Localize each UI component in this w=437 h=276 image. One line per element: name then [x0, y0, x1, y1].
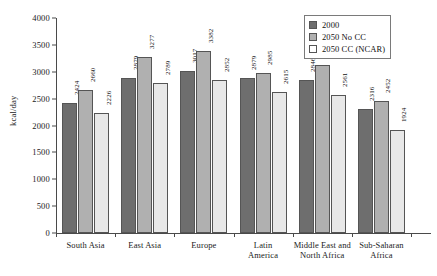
x-axis-category-label: East Asia — [115, 240, 174, 250]
x-axis-line — [56, 233, 431, 234]
bar-column: 2226 — [94, 18, 109, 233]
legend-label: 2050 CC (NCAR) — [322, 44, 385, 54]
bar-value-label: 1924 — [397, 118, 411, 126]
bar-group: 242426602226 — [56, 18, 115, 233]
bar-column: 2424 — [62, 18, 77, 233]
bar-value-label: 2852 — [220, 68, 234, 76]
x-axis-category-label: South Asia — [56, 240, 115, 250]
bar — [299, 80, 314, 233]
bar-column: 2789 — [153, 18, 168, 233]
bar-column: 2985 — [256, 18, 271, 233]
x-axis-category-label: Sub-SaharanAfrica — [352, 240, 411, 260]
bar-column: 1924 — [390, 18, 405, 233]
x-axis-tick-mark — [174, 233, 175, 237]
bar — [390, 130, 405, 233]
bar — [256, 73, 271, 233]
bar-value-label: 2226 — [102, 101, 116, 109]
bar — [331, 95, 346, 233]
bar-group: 287929852615 — [234, 18, 293, 233]
legend-swatch-icon — [309, 21, 317, 29]
bar — [78, 90, 93, 233]
bar — [240, 78, 255, 233]
bar — [272, 92, 287, 233]
bar — [62, 103, 77, 233]
legend-swatch-icon — [309, 45, 317, 53]
bar — [180, 71, 195, 233]
bar-column: 2615 — [272, 18, 287, 233]
bar — [374, 101, 389, 233]
bar-column: 2852 — [212, 18, 227, 233]
bar-column: 2660 — [78, 18, 93, 233]
bar-value-label: 2789 — [161, 71, 175, 79]
bar-group-bars: 301733822852 — [174, 18, 233, 233]
bar-group: 301733822852 — [174, 18, 233, 233]
bar — [212, 80, 227, 233]
bar — [153, 83, 168, 233]
bar-group-bars: 242426602226 — [56, 18, 115, 233]
bar — [121, 78, 136, 233]
legend-label: 2000 — [322, 20, 339, 30]
bar-column: 3382 — [196, 18, 211, 233]
x-axis-tick-mark — [115, 233, 116, 237]
y-axis-title: kcal/day — [8, 96, 18, 126]
bar-group-bars: 287932772789 — [115, 18, 174, 233]
bar-value-label: 2615 — [279, 80, 293, 88]
bar-column: 2879 — [121, 18, 136, 233]
bar — [315, 65, 330, 233]
x-axis-category-label: LatinAmerica — [234, 240, 293, 260]
legend: 2000 2050 No CC 2050 CC (NCAR) — [304, 15, 391, 59]
bar-column: 3017 — [180, 18, 195, 233]
bar-column: 3277 — [137, 18, 152, 233]
bar — [196, 51, 211, 233]
x-axis-tick-mark — [234, 233, 235, 237]
bar — [94, 113, 109, 233]
x-axis-tick-mark — [293, 233, 294, 237]
legend-item-2000: 2000 — [309, 19, 385, 31]
legend-item-2050-no-cc: 2050 No CC — [309, 31, 385, 43]
bar-column: 2879 — [240, 18, 255, 233]
bar-group-bars: 287929852615 — [234, 18, 293, 233]
bar-group: 287932772789 — [115, 18, 174, 233]
x-axis-tick-mark — [352, 233, 353, 237]
bar — [137, 57, 152, 233]
x-axis-category-label: Europe — [174, 240, 233, 250]
x-axis-tick-mark — [411, 233, 412, 237]
legend-item-2050-cc-ncar: 2050 CC (NCAR) — [309, 43, 385, 55]
bar-chart: kcal/day 0500100015002000250030003500400… — [0, 0, 437, 276]
legend-label: 2050 No CC — [322, 32, 366, 42]
x-axis-tick-mark — [56, 233, 57, 237]
x-axis-category-label: Middle East andNorth Africa — [293, 240, 352, 260]
legend-swatch-icon — [309, 33, 317, 41]
bar-value-label: 2561 — [338, 83, 352, 91]
bar — [358, 109, 373, 233]
